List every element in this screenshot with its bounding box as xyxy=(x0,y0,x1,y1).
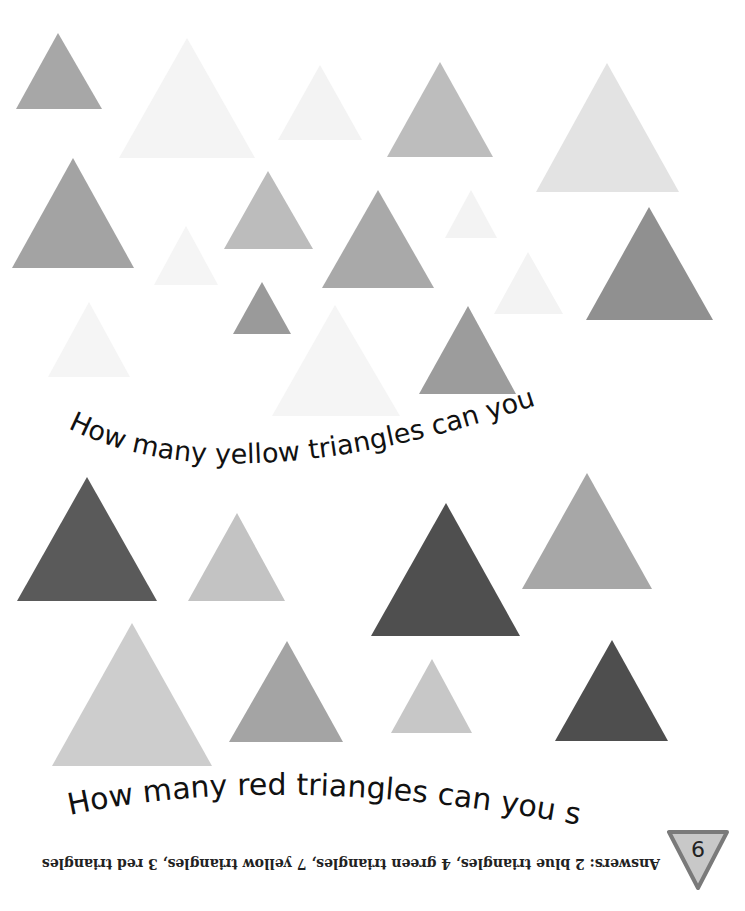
triangle-icon xyxy=(494,252,563,314)
triangle-icon xyxy=(188,513,285,601)
triangle-icon xyxy=(154,226,218,285)
triangle-icon xyxy=(17,477,157,601)
triangle-icon xyxy=(52,623,212,766)
triangle-icon xyxy=(16,33,102,109)
triangle-icon xyxy=(419,306,516,394)
triangle-icon xyxy=(229,641,343,742)
page-number: 9 xyxy=(686,836,710,861)
triangle-icon xyxy=(555,640,668,741)
triangle-icon xyxy=(536,63,679,192)
triangle-icon xyxy=(233,282,291,334)
triangle-icon xyxy=(278,65,362,140)
triangle-icon xyxy=(445,190,497,238)
triangle-icon xyxy=(12,158,134,268)
triangle-icon xyxy=(48,302,130,377)
answers-upside-down: Answers: 2 blue triangles, 4 green trian… xyxy=(70,856,660,872)
triangle-icon xyxy=(586,207,713,320)
triangle-icon xyxy=(119,38,255,158)
triangle-icon xyxy=(272,305,400,416)
worksheet-page: How many yellow triangles can you see? H… xyxy=(0,0,745,911)
triangle-icon xyxy=(371,503,520,636)
triangle-icon xyxy=(387,62,493,157)
triangle-icon xyxy=(391,659,472,733)
triangle-icon xyxy=(522,473,652,589)
triangles-canvas xyxy=(0,0,745,911)
triangle-icon xyxy=(322,190,434,288)
triangle-icon xyxy=(224,171,313,249)
